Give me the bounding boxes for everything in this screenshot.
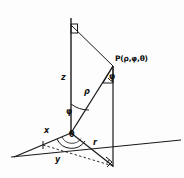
spherical-coordinates-figure: z x y r ρ φ φ θ P(ρ,φ,θ) bbox=[0, 0, 184, 178]
point-p-label: P(ρ,φ,θ) bbox=[115, 55, 148, 63]
phi-angle-label-origin: φ bbox=[66, 108, 72, 116]
diagram-canvas bbox=[0, 0, 184, 178]
x-axis-label: x bbox=[44, 127, 49, 135]
theta-angle-label: θ bbox=[69, 131, 75, 139]
y-axis-label: y bbox=[55, 156, 60, 164]
z-axis-label: z bbox=[61, 74, 66, 82]
upper-edge-to-point bbox=[71, 25, 113, 66]
rho-label: ρ bbox=[84, 88, 90, 96]
r-label: r bbox=[93, 139, 97, 147]
phi-angle-label-point: φ bbox=[109, 73, 115, 81]
r-segment bbox=[71, 133, 113, 166]
